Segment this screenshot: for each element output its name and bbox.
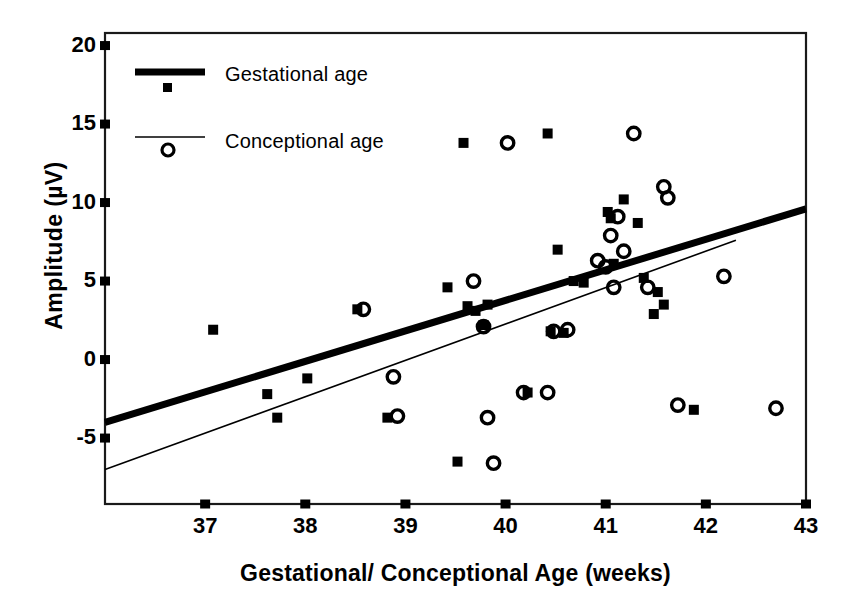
data-point-circle [391, 410, 403, 422]
data-point-square [579, 278, 589, 288]
data-point-circle [501, 137, 513, 149]
data-point-circle [487, 457, 499, 469]
data-point-square [659, 300, 669, 310]
data-point-circle [628, 127, 640, 139]
data-point-square [453, 457, 463, 467]
data-points [208, 127, 782, 469]
data-point-circle [770, 402, 782, 414]
data-point-square [262, 389, 272, 399]
data-point-circle [608, 281, 620, 293]
data-point-circle [618, 245, 630, 257]
data-point-square [553, 245, 563, 255]
data-point-square [471, 306, 481, 316]
data-point-square [543, 128, 553, 138]
chart-figure: Amplitude (µV) Gestational/ Conceptional… [0, 0, 854, 615]
data-point-square [649, 309, 659, 319]
data-point-circle [541, 386, 553, 398]
axis-ticks [100, 41, 811, 508]
data-point-circle [481, 411, 493, 423]
data-point-square [442, 282, 452, 292]
data-point-square [689, 405, 699, 415]
data-point-square [459, 138, 469, 148]
data-point-square [569, 276, 579, 286]
data-point-square [483, 300, 493, 310]
legend-symbols [135, 72, 205, 156]
data-point-square [302, 373, 312, 383]
trendlines [105, 209, 806, 470]
data-point-square [619, 194, 629, 204]
data-point-circle [605, 229, 617, 241]
data-point-square [633, 218, 643, 228]
data-point-circle [672, 399, 684, 411]
data-point-square [272, 413, 282, 423]
data-point-square [208, 325, 218, 335]
data-point-circle [387, 371, 399, 383]
data-point-circle [642, 281, 654, 293]
data-point-circle [718, 270, 730, 282]
plot-frame [105, 33, 806, 504]
plot-area [0, 0, 854, 615]
data-point-circle [467, 275, 479, 287]
